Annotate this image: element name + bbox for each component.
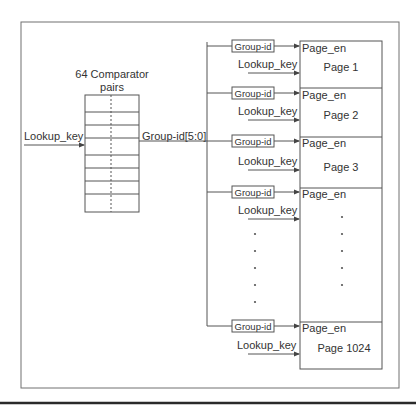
comparator-title-line2: pairs	[100, 81, 124, 93]
lookup-key-label: Lookup_key	[238, 155, 298, 167]
comparator-page-diagram: 64 Comparator pairs Lookup_key Group-id[…	[0, 0, 416, 410]
page-en-label: Page_en	[302, 89, 346, 101]
lookup-key-label: Lookup_key	[238, 204, 298, 216]
page-row-3: Group-id Page_en Lookup_key Page 3	[207, 135, 358, 173]
page-name: Page 1024	[317, 342, 370, 354]
bus-label: Group-id[5:0]	[142, 130, 206, 142]
ellipsis-dots-left	[254, 233, 256, 303]
page-name: Page 1	[324, 61, 359, 73]
svg-text:Group-id: Group-id	[235, 321, 272, 332]
comparator-title-line1: 64 Comparator	[75, 68, 149, 80]
svg-text:Group-id: Group-id	[235, 88, 272, 99]
page-row-2: Group-id Page_en Lookup_key Page 2	[207, 87, 358, 121]
lookup-key-label: Lookup_key	[237, 339, 297, 351]
page-row-1: Group-id Page_en Lookup_key Page 1	[207, 40, 358, 73]
svg-text:Group-id: Group-id	[235, 187, 272, 198]
input-lookup-key-label: Lookup_key	[24, 130, 84, 142]
lookup-key-label: Lookup_key	[238, 105, 298, 117]
page-en-label: Page_en	[302, 42, 346, 54]
page-en-label: Page_en	[302, 137, 346, 149]
svg-text:Group-id: Group-id	[235, 41, 272, 52]
page-row-1024: Group-id Page_en Lookup_key Page 1024	[207, 320, 371, 354]
page-en-label: Page_en	[302, 322, 346, 334]
page-name: Page 3	[324, 161, 359, 173]
comparator-table	[85, 95, 139, 212]
lookup-key-label: Lookup_key	[238, 58, 298, 70]
page-row-ellipsis: Group-id Page_en Lookup_key	[207, 186, 346, 219]
page-en-label: Page_en	[302, 188, 346, 200]
ellipsis-dots-right	[341, 216, 343, 286]
page-name: Page 2	[324, 109, 359, 121]
svg-text:Group-id: Group-id	[235, 136, 272, 147]
